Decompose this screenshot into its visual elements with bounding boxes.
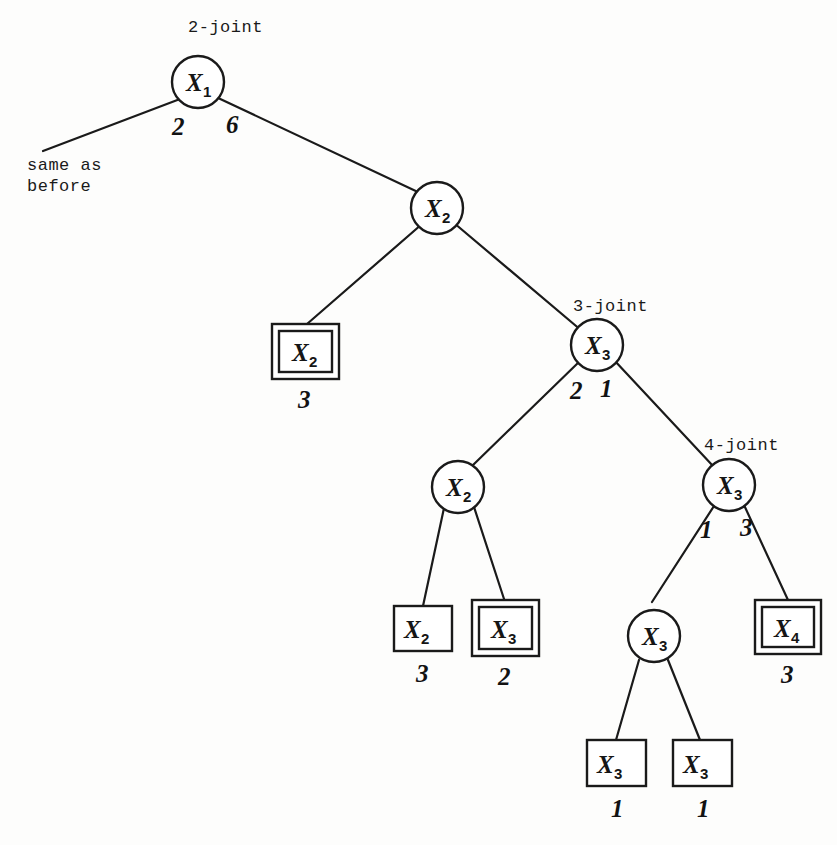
edge-weight-joint4-left: 1: [700, 516, 713, 543]
leaf-x2-b-count: 3: [415, 660, 429, 687]
node-x2-mid-sub: 2: [463, 488, 471, 505]
leaf-x3-a-var: X: [490, 616, 509, 643]
leaf-x3-a-sub: 3: [508, 630, 516, 647]
edge-x3low-left: [616, 660, 639, 740]
edge-weight-joint4-right: 3: [739, 514, 753, 541]
leaf-x3-c-var: X: [682, 751, 701, 778]
leaf-x3-b-count: 1: [611, 795, 624, 822]
joint-tree-diagram: X 1 X 2 X 3 X 2 X 3 X: [0, 0, 837, 845]
edge-x2mid-left: [423, 508, 444, 606]
leaf-x2-b-var: X: [403, 616, 422, 643]
node-x2-mid[interactable]: X 2: [432, 461, 484, 513]
annotation-4-joint: 4-joint: [704, 436, 779, 455]
leaf-x3-b-sub: 3: [614, 765, 622, 782]
edge-x2mid-right: [474, 507, 505, 602]
node-x2-top-sub: 2: [442, 209, 450, 226]
leaf-x2-a-sub: 2: [309, 353, 317, 370]
edge-weight-joint3-left: 2: [569, 377, 583, 404]
leaf-x3-b-var: X: [596, 751, 615, 778]
leaf-x3-c-sub: 3: [700, 765, 708, 782]
leaf-x2-b-sub: 2: [421, 630, 429, 647]
node-x3-joint4-var: X: [716, 472, 735, 499]
edge-x2top-leaf: [307, 224, 422, 324]
annotation-2-joint: 2-joint: [188, 18, 263, 37]
leaf-x2-a-count: 3: [297, 386, 311, 413]
edge-weight-root-left: 2: [171, 113, 185, 140]
edge-joint3-right: [614, 360, 713, 466]
edge-weight-joint3-right: 1: [600, 375, 613, 402]
edge-x2top-joint3: [454, 223, 582, 331]
leaf-x3-a-count: 2: [497, 663, 511, 690]
edge-root-right: [216, 97, 420, 193]
edge-x3low-right: [668, 660, 700, 740]
node-x3-joint3-var: X: [584, 332, 603, 359]
leaf-x4-var: X: [773, 615, 792, 642]
edge-joint3-left: [472, 360, 581, 466]
leaf-x4-count: 3: [780, 661, 794, 688]
leaf-x3-a[interactable]: X 3 2: [472, 600, 539, 690]
leaf-x3-c-count: 1: [697, 795, 710, 822]
node-root-x1-var: X: [185, 69, 204, 96]
leaf-x2-b[interactable]: X 2 3: [394, 606, 452, 687]
node-x2-mid-var: X: [445, 474, 464, 501]
leaf-x2-a-var: X: [291, 339, 310, 366]
node-x3-joint4[interactable]: X 3: [703, 459, 755, 511]
edge-weight-root-right: 6: [226, 111, 239, 138]
annotation-same-as-line1: same as: [27, 156, 102, 175]
leaf-x2-a[interactable]: X 2 3: [272, 324, 339, 413]
annotation-same-as-line2: before: [27, 177, 91, 196]
leaf-x4[interactable]: X 4 3: [755, 600, 821, 688]
node-x3-joint4-sub: 3: [734, 486, 742, 503]
node-x3-joint3-sub: 3: [602, 346, 610, 363]
node-x2-top[interactable]: X 2: [411, 182, 463, 234]
tree-canvas: X 1 X 2 X 3 X 2 X 3 X: [0, 0, 837, 845]
node-x3-joint3[interactable]: X 3: [571, 319, 623, 371]
leaf-x4-sub: 4: [791, 629, 800, 646]
node-root-x1[interactable]: X 1: [172, 56, 224, 108]
annotation-3-joint: 3-joint: [573, 297, 648, 316]
node-x3-low-var: X: [641, 623, 660, 650]
leaf-x3-c[interactable]: X 3 1: [673, 740, 732, 822]
leaf-x3-b[interactable]: X 3 1: [587, 740, 646, 822]
node-x3-low-sub: 3: [659, 637, 667, 654]
edge-root-left: [43, 99, 180, 151]
node-root-x1-sub: 1: [203, 83, 211, 100]
node-x3-low[interactable]: X 3: [628, 610, 680, 662]
node-x2-top-var: X: [424, 195, 443, 222]
